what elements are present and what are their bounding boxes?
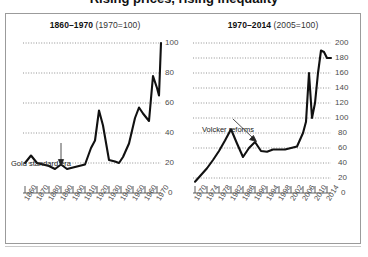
panel-left-plot [23,33,173,208]
ytick-right-80: 80 [338,129,347,137]
figure-baseline-rule [5,246,361,247]
ytick-right-140: 140 [335,84,348,92]
ytick-left-100: 100 [165,39,178,47]
panel-right: 1970–2014 (2005=100) [185,13,361,244]
panel-right-title-base: (2005=100) [274,20,319,30]
ytick-right-100: 100 [335,114,348,122]
figure-title: Rising prices, rising inequality [90,0,279,6]
ytick-right-200: 200 [335,39,348,47]
ytick-left-40: 40 [165,129,174,137]
figure-root: Rising prices, rising inequality 1860–19… [0,0,368,257]
panel-right-title-range: 1970–2014 [228,20,271,30]
ytick-left-60: 60 [165,99,174,107]
panel-left-title-range: 1860–1970 [50,20,93,30]
ytick-right-0: 0 [341,189,345,197]
ytick-right-60: 60 [338,144,347,152]
panel-right-title: 1970–2014 (2005=100) [185,20,361,30]
panel-right-plot [193,33,343,208]
ytick-right-120: 120 [335,99,348,107]
panel-left-title-base: (1970=100) [96,20,141,30]
annotation-gold-standard-era: Gold standard era [11,159,71,168]
annotation-volcker-reforms: Volcker reforms [202,125,254,134]
panel-left-svg [23,33,173,208]
series-line-left [25,43,161,169]
panel-right-svg [193,33,343,208]
ytick-left-20: 20 [165,159,174,167]
ytick-left-80: 80 [165,69,174,77]
ytick-right-40: 40 [338,159,347,167]
series-line-right [195,51,331,182]
figure-title-clipped: Rising prices, rising inequality [0,0,368,12]
ytick-right-180: 180 [335,54,348,62]
ytick-right-160: 160 [335,69,348,77]
panel-left-title: 1860–1970 (1970=100) [5,20,185,30]
ytick-right-20: 20 [338,174,347,182]
panel-left: 1860–1970 (1970=100) [5,13,185,244]
